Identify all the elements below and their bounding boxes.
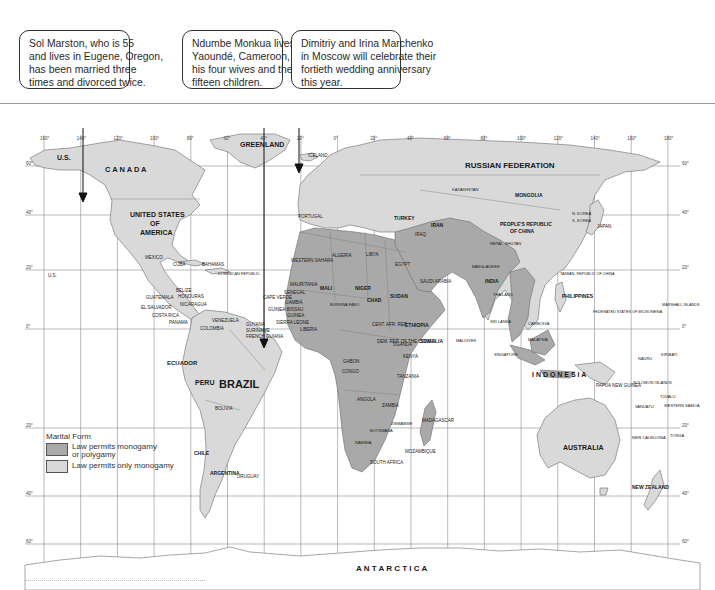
region-label: SOLOMON ISLANDS — [633, 380, 672, 385]
latitude-label: 0° — [682, 324, 687, 329]
region-label: BANGLADESH — [472, 264, 499, 269]
region-label: OF CHINA — [510, 228, 535, 234]
region-label: ZIMBABWE — [391, 421, 413, 426]
region-label: MADAGASCAR — [422, 418, 455, 423]
region-label: UGANDA — [393, 342, 412, 347]
longitude-labels: 160°140°120°100°80°60°40°20°0°20°40°60°8… — [40, 136, 673, 141]
region-label: UNITED STATES — [130, 211, 185, 218]
region-label: KAZAKHSTAN — [452, 187, 478, 192]
region-label: MALI — [320, 285, 333, 291]
longitude-label: 100° — [150, 136, 160, 141]
region-label: EL SALVADOR — [141, 305, 172, 310]
region-label: SIERRA LEONE — [276, 320, 309, 325]
longitude-label: 160° — [40, 136, 50, 141]
region-label: KENYA — [403, 354, 418, 359]
longitude-label: 20° — [297, 136, 304, 141]
region-label: DOMINICAN REPUBLIC — [218, 272, 260, 276]
legend-item-polygamy: Law permits monogamy or polygamy — [46, 443, 174, 459]
region-label: SAUDI ARABIA — [420, 279, 451, 284]
region-label: AUSTRALIA — [563, 444, 603, 451]
region-label: INDIA — [485, 278, 499, 284]
legend-swatch-polygamy — [46, 443, 68, 456]
longitude-label: 160° — [627, 136, 637, 141]
region-label: WESTERN SAHARA — [291, 258, 333, 263]
latitude-label: 60° — [682, 539, 689, 544]
region-label: ETHIOPIA — [405, 322, 429, 328]
landmasses — [25, 134, 700, 590]
region-label: NAURU — [638, 356, 652, 361]
region-label: ARGENTINA — [210, 470, 240, 476]
callout-text: fifteen children. — [192, 76, 274, 89]
latitude-label: 40° — [26, 491, 33, 496]
region-label: IRAN — [431, 222, 444, 228]
region-label: ECUADOR — [167, 360, 198, 366]
longitude-label: 80° — [480, 136, 487, 141]
region-label: BRAZIL — [219, 378, 260, 390]
region-label: BAHAMAS — [202, 262, 224, 267]
latitude-label: 60° — [682, 161, 689, 166]
region-label: MOZAMBIQUE — [405, 449, 436, 454]
region-label: MALAYSIA — [528, 337, 548, 342]
callout-marston: Sol Marston, who is 55 and lives in Euge… — [19, 30, 130, 89]
longitude-label: 20° — [370, 136, 377, 141]
latitude-label: 20° — [682, 423, 689, 428]
longitude-label: 100° — [517, 136, 527, 141]
region-label: PHILIPPINES — [562, 293, 594, 299]
arrow-head-icon — [79, 193, 87, 202]
region-label: THAILAND — [493, 292, 513, 297]
region-label: TURKEY — [394, 215, 415, 221]
latitude-label: 20° — [682, 265, 689, 270]
region-label: N. KOREA — [572, 211, 591, 216]
callout-text: in Moscow will celebrate their — [301, 50, 392, 63]
region-label: GUYANA — [246, 322, 265, 327]
region-label: COLOMBIA — [200, 326, 224, 331]
region-label: S. KOREA — [572, 218, 591, 223]
latitude-label: 60° — [26, 161, 33, 166]
callout-text: this year. — [301, 76, 392, 89]
region-label: NIGER — [355, 285, 371, 291]
region-label: BURKINA FASO — [330, 302, 359, 307]
region-label: NEPAL — [490, 241, 504, 246]
region-label: OF — [150, 220, 160, 227]
longitude-label: 120° — [554, 136, 564, 141]
region-label: MARSHALL ISLANDS — [662, 303, 700, 307]
region-label: SINGAPORE — [494, 352, 518, 357]
region-label: HONDURAS — [178, 294, 204, 299]
latitude-label: 40° — [26, 210, 33, 215]
callout-marchenko: Dimitriy and Irina Marchenko in Moscow w… — [291, 30, 401, 89]
region-label: LIBERIA — [300, 327, 317, 332]
longitude-label: 140° — [77, 136, 87, 141]
region-label: URUGUAY — [237, 474, 259, 479]
region-label: SRI LANKA — [490, 319, 511, 324]
region-label: MAURITANIA — [290, 282, 317, 287]
region-label: NAMIBIA — [355, 440, 372, 445]
land-australia — [537, 398, 620, 478]
region-label: TONGA — [670, 433, 684, 438]
region-label: GREENLAND — [240, 141, 284, 148]
region-label: BELIZE — [176, 288, 192, 293]
legend-swatch-monogamy — [46, 460, 68, 473]
longitude-label: 120° — [113, 136, 123, 141]
region-label: U.S. — [48, 273, 57, 278]
latitude-label: 0° — [26, 324, 31, 329]
legend-label: or polygamy — [72, 451, 157, 459]
callout-text: has been married three — [29, 63, 121, 76]
region-label: MONGOLIA — [515, 192, 543, 198]
caption-rule — [25, 580, 205, 583]
latitude-label: 60° — [26, 539, 33, 544]
region-label: CAMBODIA — [528, 321, 550, 326]
longitude-label: 80° — [187, 136, 194, 141]
region-label: CHILE — [194, 450, 210, 456]
arrow-head-icon — [295, 164, 303, 173]
region-label: CENT. AFR. REP. — [372, 322, 407, 327]
region-label: GABON — [343, 359, 359, 364]
region-label: CONGO — [342, 369, 360, 374]
region-label: FRENCH GUIANA — [246, 334, 283, 339]
region-label: PEOPLE'S REPUBLIC — [500, 221, 552, 227]
region-label: MEXICO — [145, 255, 163, 260]
region-label: CUBA — [173, 262, 186, 267]
region-label: BOLIVIA — [215, 406, 233, 411]
region-label: TUVALU — [660, 394, 676, 399]
longitude-label: 140° — [591, 136, 601, 141]
region-label: ZAMBIA — [382, 403, 399, 408]
